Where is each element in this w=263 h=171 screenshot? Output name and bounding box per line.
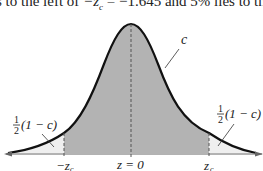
right-critical-sub: c (210, 165, 214, 171)
left-tail-frac-num: 1 (14, 114, 19, 125)
left-critical-sub: c (70, 165, 74, 171)
center-area (64, 24, 209, 153)
right-tail-frac-den: 2 (218, 114, 223, 125)
left-tail-frac-den: 2 (14, 125, 19, 136)
right-tail-frac-num: 1 (218, 103, 223, 114)
right-tail-area (209, 133, 256, 153)
center-area-label: c (181, 32, 188, 47)
right-tail-expr: (1 − c) (225, 106, 261, 121)
right-arrow-icon (255, 152, 263, 157)
center-label-leader (165, 49, 179, 68)
center-label: z = 0 (116, 157, 144, 171)
normal-curve-diagram: c 1 2 (1 − c) 1 2 (1 − c) −z c z = 0 z c (0, 0, 263, 171)
left-tail-area (8, 133, 64, 153)
left-tail-expr: (1 − c) (21, 117, 57, 132)
right-critical-label: z (203, 158, 209, 171)
left-critical-label: −z (56, 158, 70, 171)
